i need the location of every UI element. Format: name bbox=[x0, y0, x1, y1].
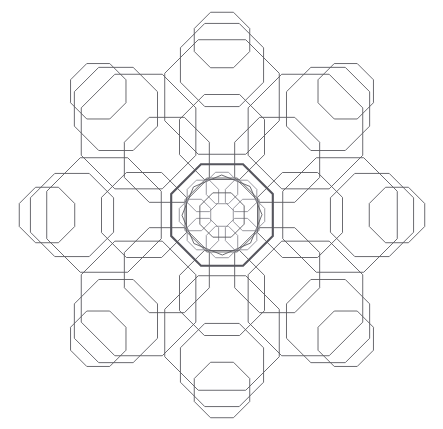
figure-canvas: Octagonal Rosette Tiling Self-similar ge… bbox=[0, 0, 443, 429]
background-rect bbox=[0, 0, 443, 429]
octagon-rosette-pattern bbox=[0, 0, 443, 429]
